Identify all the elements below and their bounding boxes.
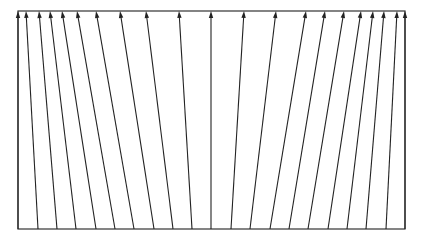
arrowhead-icon (16, 11, 20, 18)
arrow (347, 11, 374, 229)
arrow (16, 11, 20, 229)
arrowhead-icon (24, 11, 28, 18)
arrowhead-icon (119, 11, 123, 18)
arrow-shaft (121, 17, 154, 229)
arrowhead-icon (37, 11, 41, 18)
arrow (270, 11, 307, 229)
arrowhead-icon (303, 11, 307, 18)
arrow-shaft (250, 17, 275, 229)
arrow (289, 11, 326, 229)
arrowhead-icon (358, 11, 362, 18)
arrow (328, 11, 362, 229)
arrow (119, 11, 154, 229)
arrow-shaft (328, 17, 360, 229)
arrow (24, 11, 38, 229)
arrowhead-icon (370, 11, 374, 18)
arrow (61, 11, 96, 229)
arrow (403, 11, 407, 229)
arrow-shaft (386, 17, 397, 229)
arrow-shaft (97, 17, 134, 229)
arrow (177, 11, 192, 229)
arrow-shaft (308, 17, 343, 229)
arrow-group (16, 11, 407, 229)
arrow (49, 11, 76, 229)
arrow-shaft (78, 17, 115, 229)
arrow (95, 11, 134, 229)
arrow (386, 11, 399, 229)
arrowhead-icon (381, 11, 385, 18)
arrowhead-icon (241, 11, 245, 18)
arrow-shaft (179, 17, 192, 229)
arrowhead-icon (95, 11, 99, 18)
arrow (308, 11, 345, 229)
arrowhead-icon (145, 11, 149, 18)
arrow-shaft (26, 17, 38, 229)
arrow-shaft (147, 17, 173, 229)
arrow (231, 11, 246, 229)
arrow-shaft (63, 17, 96, 229)
arrow-fan-diagram (0, 0, 421, 240)
arrowhead-icon (177, 11, 181, 18)
arrow (250, 11, 277, 229)
arrowhead-icon (209, 11, 213, 18)
arrow-shaft (270, 17, 305, 229)
arrowhead-icon (273, 11, 277, 18)
arrowhead-icon (49, 11, 53, 18)
arrowhead-icon (394, 11, 398, 18)
arrowhead-icon (322, 11, 326, 18)
arrowhead-icon (61, 11, 65, 18)
arrow-shaft (289, 17, 324, 229)
arrowhead-icon (403, 11, 407, 18)
arrow-shaft (231, 17, 244, 229)
arrow (209, 11, 213, 229)
arrow (76, 11, 115, 229)
arrowhead-icon (341, 11, 345, 18)
arrowhead-icon (76, 11, 80, 18)
